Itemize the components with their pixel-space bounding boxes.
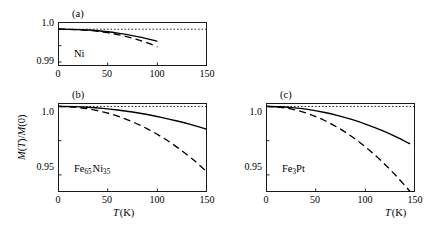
panel-a-ytick-0: 0.99 (20, 55, 54, 66)
panel-b-material-label: Fe65 Ni35 (74, 163, 110, 176)
panel-b-plot (58, 103, 207, 192)
panel-a-xtick-1: 50 (95, 68, 119, 79)
panel-c-plot (266, 103, 415, 192)
panel-b-xtick-3: 150 (194, 194, 220, 205)
panel-c-tag: (c) (280, 89, 292, 100)
panel-b-fe65ni35 (58, 103, 207, 192)
panel-b-ytick-0: 0.95 (16, 161, 54, 172)
panel-a-xtick-3: 150 (194, 68, 220, 79)
panel-b-tag: (b) (72, 89, 84, 100)
panel-b-xtick-2: 100 (144, 194, 170, 205)
panel-a-ni (58, 22, 207, 66)
panel-c-xtick-0: 0 (254, 194, 278, 205)
panel-c-ytick-0: 0.95 (224, 161, 262, 172)
panel-a-plot (58, 22, 207, 66)
panel-a-xtick-0: 0 (46, 68, 70, 79)
panel-a-ytick-1: 1.0 (26, 17, 54, 28)
figure-magnetization-vs-temperature: M(T)/M(0) (a) Ni 1.0 0.99 0 50 100 150 (… (0, 0, 439, 232)
panel-b-xtick-0: 0 (46, 194, 70, 205)
panel-c-material-label: Fe3Pt (282, 163, 305, 176)
y-axis-title: M(T)/M(0) (16, 114, 27, 160)
panel-c-xtick-3: 150 (402, 194, 428, 205)
panel-c-xtick-1: 50 (303, 194, 327, 205)
panel-a-xtick-2: 100 (144, 68, 170, 79)
panel-c-xtick-2: 100 (352, 194, 378, 205)
panel-a-material-label: Ni (74, 48, 85, 59)
panel-b-ytick-1: 1.0 (26, 106, 54, 117)
panel-c-ytick-1: 1.0 (234, 106, 262, 117)
panel-b-x-axis-title: T (K) (113, 207, 134, 218)
panel-b-xtick-1: 50 (95, 194, 119, 205)
panel-c-x-axis-title: T (K) (385, 207, 406, 218)
panel-c-fe3pt (266, 103, 415, 192)
panel-a-tag: (a) (72, 8, 84, 19)
